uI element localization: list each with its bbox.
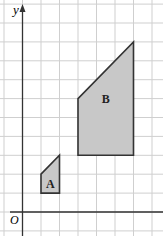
origin-label: O	[10, 213, 19, 227]
shape-label-b: B	[102, 92, 110, 106]
y-axis-arrow-icon	[20, 4, 26, 12]
coordinate-diagram: AB y O	[0, 0, 163, 236]
y-axis-label: y	[11, 2, 19, 17]
shape-label-a: A	[46, 177, 55, 191]
